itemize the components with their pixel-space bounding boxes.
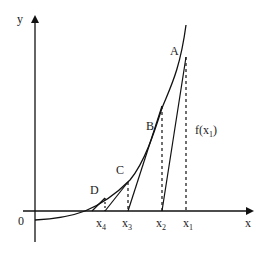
tangent-at-A	[162, 57, 186, 211]
tangent-at-C	[105, 182, 128, 211]
tangent-at-B	[128, 106, 162, 211]
point-label-A: A	[170, 44, 179, 58]
x-axis-label: x	[245, 216, 251, 230]
function-curve	[35, 25, 186, 220]
tick-label-x4: x4	[96, 216, 106, 232]
newton-method-diagram: A B C D f(x1) x4 x3 x2 x1 x y 0	[0, 0, 267, 254]
fx1-prefix: f(x	[195, 123, 209, 137]
tangent-at-D	[92, 198, 105, 211]
point-label-D: D	[90, 183, 99, 197]
tick-label-x2: x2	[156, 216, 166, 232]
fx1-suffix: )	[213, 123, 217, 137]
fx1-label: f(x1)	[195, 123, 217, 139]
origin-label: 0	[18, 214, 24, 228]
point-label-B: B	[146, 119, 154, 133]
point-label-C: C	[116, 163, 124, 177]
tick-label-x1: x1	[183, 216, 193, 232]
tick-label-x3: x3	[122, 216, 132, 232]
y-axis-label: y	[17, 12, 23, 26]
